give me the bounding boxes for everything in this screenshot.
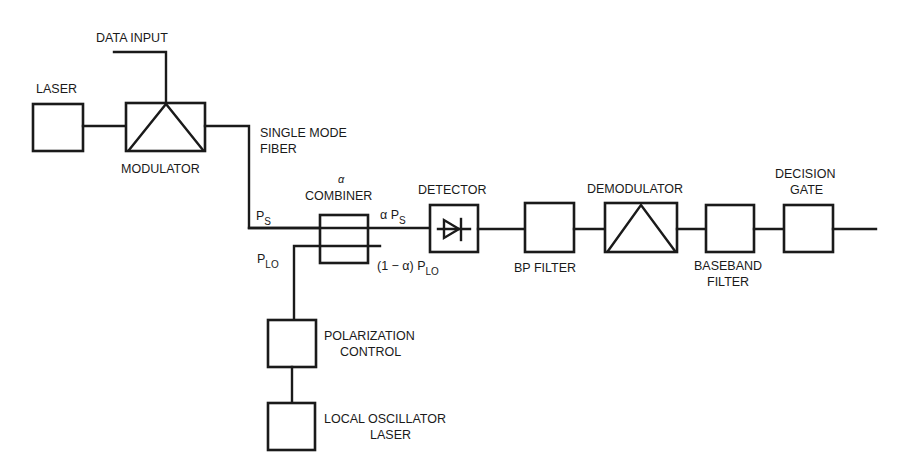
- plo-label: PLO: [257, 252, 279, 270]
- decision-gate-block: [784, 205, 833, 252]
- decision-gate-label-line1: DECISION: [775, 167, 835, 181]
- local-oscillator-block: [268, 403, 315, 450]
- bp-filter-label: BP FILTER: [514, 261, 576, 275]
- one-minus-alpha-plo-label: (1 − α) PLO: [377, 259, 439, 277]
- laser-label: LASER: [36, 82, 77, 96]
- combiner-alpha-label: α: [338, 173, 345, 185]
- detector-label: DETECTOR: [418, 183, 487, 197]
- fiber-label-line2: FIBER: [260, 142, 297, 156]
- baseband-filter-block: [706, 205, 754, 252]
- combiner-label: COMBINER: [305, 189, 372, 203]
- local-oscillator-label-line2: LASER: [370, 428, 411, 442]
- data-input-line: [114, 52, 166, 103]
- modulator-label: MODULATOR: [121, 162, 200, 176]
- demodulator-block: [605, 203, 677, 252]
- baseband-filter-label-line1: BASEBAND: [694, 259, 762, 273]
- fiber-label-line1: SINGLE MODE: [260, 126, 347, 140]
- combiner-block: [320, 215, 368, 263]
- polarization-control-label-line2: CONTROL: [340, 345, 401, 359]
- bp-filter-block: [525, 203, 574, 252]
- polarization-control-label-line1: POLARIZATION: [324, 329, 415, 343]
- alpha-ps-label: α PS: [380, 208, 406, 226]
- decision-gate-label-line2: GATE: [790, 183, 823, 197]
- local-oscillator-label-line1: LOCAL OSCILLATOR: [324, 412, 446, 426]
- laser-block: [33, 104, 83, 151]
- polarization-control-block: [268, 320, 316, 367]
- data-input-label: DATA INPUT: [96, 31, 168, 45]
- baseband-filter-label-line2: FILTER: [707, 275, 749, 289]
- coherent-receiver-diagram: DATA INPUT LASER MODULATOR SINGLE MODE F…: [0, 0, 909, 473]
- modulator-block: [126, 103, 205, 151]
- ps-label: PS: [256, 209, 271, 227]
- demodulator-label: DEMODULATOR: [587, 182, 683, 196]
